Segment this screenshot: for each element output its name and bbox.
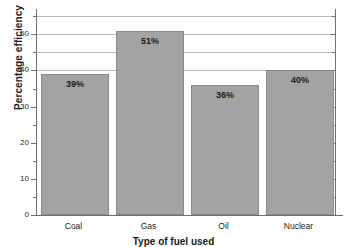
y-tick-label: 10	[0, 174, 29, 183]
y-tick-minor	[33, 161, 36, 162]
y-tick-major	[31, 215, 36, 216]
right-axis-line	[335, 9, 336, 216]
y-tick-minor	[33, 89, 36, 90]
bar: 36%	[191, 85, 259, 215]
gridline	[37, 16, 336, 17]
gridline	[37, 52, 336, 53]
bar-value-label: 40%	[267, 75, 333, 85]
bar-value-label: 51%	[117, 36, 183, 46]
x-axis-title: Type of fuel used	[0, 236, 347, 247]
category-label: Coal	[36, 221, 111, 231]
right-tick-minor	[332, 16, 336, 17]
gridline	[37, 34, 336, 35]
y-tick-label: 40	[0, 65, 29, 74]
category-label: Nuclear	[261, 221, 336, 231]
y-tick-major	[31, 143, 36, 144]
y-tick-major	[31, 179, 36, 180]
y-tick-minor	[33, 125, 36, 126]
y-axis-line	[36, 9, 37, 216]
y-tick-major	[31, 34, 36, 35]
bar-value-label: 39%	[42, 79, 108, 89]
right-tick-major	[330, 34, 336, 35]
y-tick-major	[31, 70, 36, 71]
right-tick-minor	[332, 52, 336, 53]
y-tick-label: 50	[0, 29, 29, 38]
y-tick-major	[31, 107, 36, 108]
bar: 51%	[116, 31, 184, 215]
category-label: Gas	[111, 221, 186, 231]
bar-value-label: 36%	[192, 90, 258, 100]
plot-area: 01020304050 39%51%36%40% CoalGasOilNucle…	[36, 9, 336, 216]
y-tick-label: 30	[0, 102, 29, 111]
category-label: Oil	[186, 221, 261, 231]
x-axis-line	[32, 215, 343, 216]
y-tick-minor	[33, 16, 36, 17]
bar: 40%	[266, 70, 334, 215]
y-tick-minor	[33, 197, 36, 198]
y-tick-label: 0	[0, 210, 29, 219]
bar: 39%	[41, 74, 109, 215]
y-tick-label: 20	[0, 138, 29, 147]
y-tick-minor	[33, 52, 36, 53]
